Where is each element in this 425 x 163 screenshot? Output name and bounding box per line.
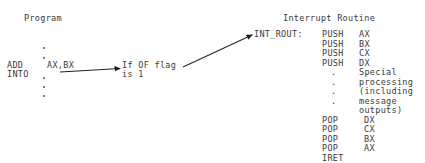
routine-arg: outputs) [359, 106, 402, 115]
routine-arg: Special [359, 68, 397, 77]
routine-arg: AX [359, 30, 370, 39]
ellipsis-dot [43, 77, 45, 79]
ellipsis-dot [43, 95, 45, 97]
routine-op: IRET [322, 154, 344, 163]
routine-op: POP [322, 144, 338, 153]
routine-op: PUSH [322, 49, 344, 58]
ellipsis-dot [43, 47, 45, 49]
routine-title: Interrupt Routine [283, 14, 375, 23]
arrow-to-interrupt-routine [183, 35, 252, 67]
routine-op: PUSH [322, 30, 344, 39]
ellipsis-dot [43, 57, 45, 59]
routine-op: POP [322, 125, 338, 134]
into-mnemonic: INTO [7, 70, 29, 79]
routine-op: . [331, 87, 336, 96]
routine-arg: CX [364, 125, 375, 134]
routine-arg: CX [359, 49, 370, 58]
add-operands: AX,BX [47, 61, 74, 70]
condition-line-2: is 1 [122, 70, 144, 79]
routine-op: . [331, 68, 336, 77]
routine-op: . [331, 97, 336, 106]
program-title: Program [24, 14, 62, 23]
ellipsis-dot [43, 86, 45, 88]
routine-arg: AX [364, 144, 375, 153]
routine-arg: (including [359, 87, 413, 96]
routine-label: INT_ROUT: [254, 30, 303, 39]
